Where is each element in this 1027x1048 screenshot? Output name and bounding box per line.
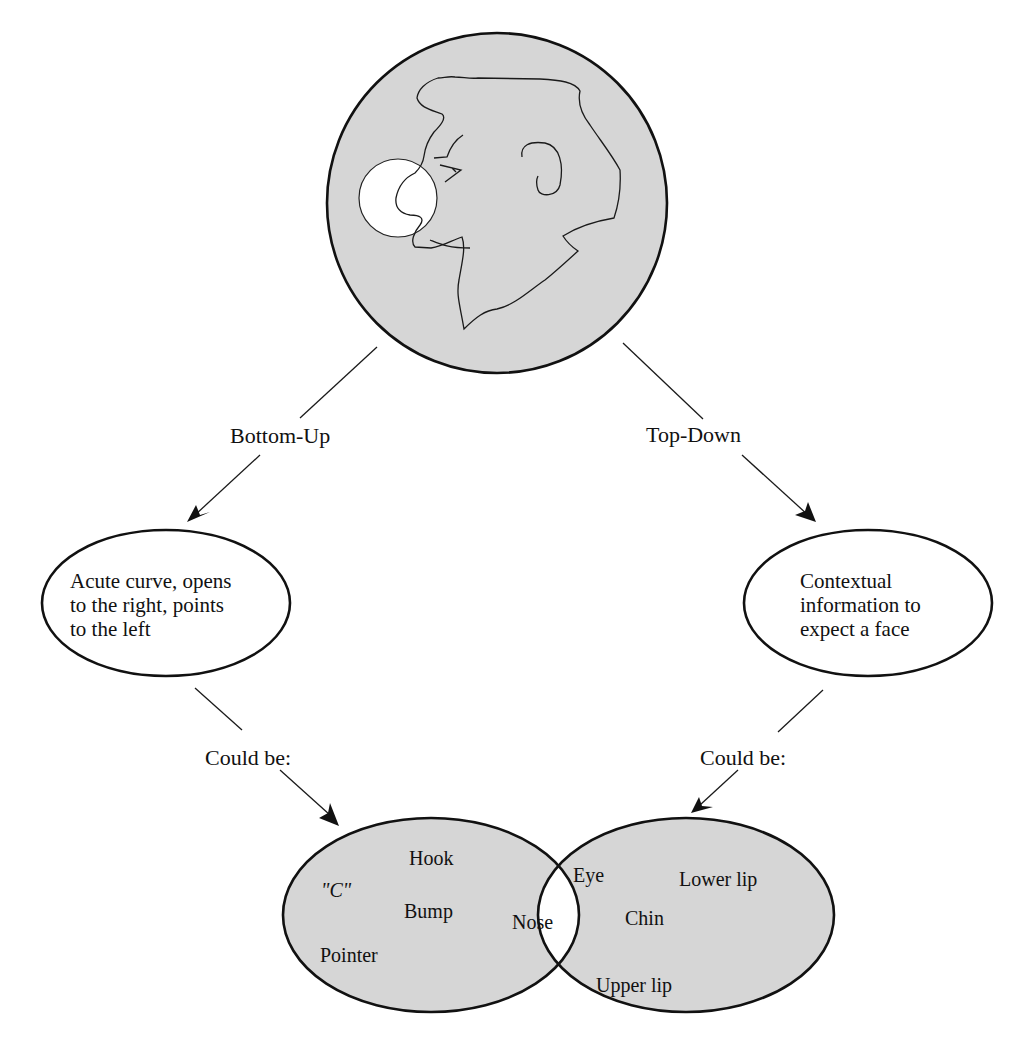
node-line: Acute curve, opens [70,569,232,593]
venn-diagram: Hook "C" Bump Pointer Nose Eye Lower lip… [283,818,834,1012]
could-be-label-left: Could be: [205,745,291,770]
venn-item-eye: Eye [573,864,604,887]
connector-line [300,347,377,418]
node-line: Contextual [800,569,892,593]
venn-item-hook: Hook [409,847,453,869]
connector-line [623,343,703,419]
arrowhead-icon [795,502,816,522]
connector-line [195,455,260,515]
connector-line [778,690,823,732]
could-be-label-right: Could be: [700,745,786,770]
connector-line [195,688,242,730]
venn-item-chin: Chin [625,907,664,929]
connector-line [280,770,330,815]
bottom-up-branch: Bottom-Up Acute curve, opens to the righ… [42,347,377,826]
node-line: expect a face [800,617,910,641]
bottom-up-label: Bottom-Up [230,423,330,448]
face-figure [327,33,667,373]
node-line: information to [800,593,921,617]
venn-item-bump: Bump [404,900,453,923]
connector-line [700,770,738,805]
arrowhead-icon [691,797,713,813]
venn-item-nose: Nose [512,911,553,933]
venn-item-pointer: Pointer [320,944,378,966]
node-line: to the left [70,617,151,641]
node-line: to the right, points [70,593,224,617]
venn-item-lower-lip: Lower lip [679,868,757,891]
arrowhead-icon [187,505,210,522]
top-down-branch: Top-Down Contextual information to expec… [623,343,992,813]
top-down-label: Top-Down [646,422,741,447]
nose-highlight-circle [359,159,437,237]
connector-line [742,455,808,515]
arrowhead-icon [319,803,339,826]
venn-item-c: "C" [321,879,352,901]
perception-diagram: Bottom-Up Acute curve, opens to the righ… [0,0,1027,1048]
venn-item-upper-lip: Upper lip [596,974,672,997]
